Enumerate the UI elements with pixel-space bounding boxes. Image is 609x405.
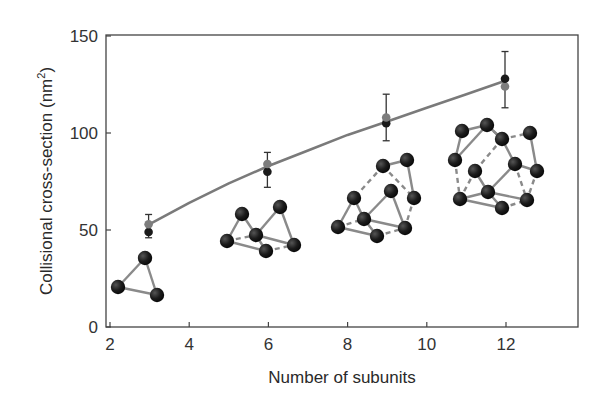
x-tick-label: 8 xyxy=(343,335,352,354)
atom xyxy=(370,229,384,243)
measured-point xyxy=(144,228,153,237)
atom xyxy=(468,164,482,178)
x-tick-label: 12 xyxy=(497,335,516,354)
fit-curve xyxy=(150,81,506,225)
y-axis-ticks: 050100150 xyxy=(70,27,111,337)
atom xyxy=(259,244,273,258)
nonamer-structure xyxy=(331,153,421,243)
atom xyxy=(138,251,152,265)
atom xyxy=(273,200,287,214)
atom xyxy=(455,124,469,138)
atom xyxy=(347,191,361,205)
atom xyxy=(481,185,495,199)
y-axis-title-close: ) xyxy=(37,67,56,73)
y-tick-label: 0 xyxy=(89,318,98,337)
calculated-point xyxy=(382,113,391,122)
atom xyxy=(384,184,398,198)
calculated-point xyxy=(144,220,153,229)
atom xyxy=(448,153,462,167)
trimer-structure xyxy=(111,251,164,302)
atom xyxy=(331,220,345,234)
atom xyxy=(398,221,412,235)
dodecamer-structure xyxy=(448,118,544,215)
data-points xyxy=(144,52,509,238)
chart: 24681012 050100150 Number of subunits Co… xyxy=(0,0,609,405)
atom xyxy=(508,157,522,171)
atom xyxy=(407,191,421,205)
atom xyxy=(220,234,234,248)
x-tick-label: 6 xyxy=(264,335,273,354)
atom xyxy=(520,193,534,207)
measured-point xyxy=(263,168,272,177)
atom xyxy=(111,280,125,294)
atom xyxy=(480,118,494,132)
calculated-point xyxy=(501,82,510,91)
atom xyxy=(235,207,249,221)
fit-curve-line xyxy=(150,81,506,225)
y-tick-label: 100 xyxy=(70,124,98,143)
y-axis-title-main: Collisional cross-section (nm xyxy=(37,79,56,295)
x-axis-title: Number of subunits xyxy=(268,368,415,387)
hexamer-structure xyxy=(220,200,301,258)
atom xyxy=(249,228,263,242)
x-tick-label: 2 xyxy=(105,335,114,354)
calculated-point xyxy=(263,160,272,169)
atom xyxy=(376,159,390,173)
atom xyxy=(523,126,537,140)
y-tick-label: 50 xyxy=(79,221,98,240)
measured-point xyxy=(501,74,510,83)
atom xyxy=(453,192,467,206)
atom xyxy=(530,164,544,178)
atom xyxy=(357,212,371,226)
y-tick-label: 150 xyxy=(70,27,98,46)
x-tick-label: 10 xyxy=(417,335,436,354)
atom xyxy=(287,238,301,252)
y-axis-title: Collisional cross-section (nm2) xyxy=(35,67,56,295)
x-tick-label: 4 xyxy=(184,335,193,354)
atom xyxy=(495,201,509,215)
atom xyxy=(150,288,164,302)
atom xyxy=(400,153,414,167)
atom xyxy=(495,132,509,146)
